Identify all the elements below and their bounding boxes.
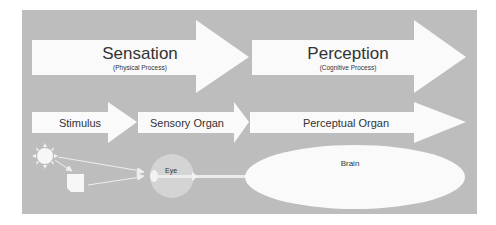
sensory-organ-label: Sensory Organ — [150, 117, 224, 129]
sensation-perception-diagram: Sensation (Physical Process) Perception … — [0, 0, 496, 225]
brain-label: Brain — [341, 159, 360, 168]
perception-title: Perception — [307, 44, 388, 63]
perception-subtitle: (Cognitive Process) — [320, 64, 377, 72]
sensation-title: Sensation — [102, 44, 178, 63]
square-object-icon — [67, 174, 84, 192]
eye-label: Eye — [165, 167, 177, 175]
perceptual-organ-label: Perceptual Organ — [303, 117, 389, 129]
sensation-subtitle: (Physical Process) — [113, 64, 167, 72]
brain: Brain — [245, 145, 465, 209]
stimulus-label: Stimulus — [59, 117, 102, 129]
